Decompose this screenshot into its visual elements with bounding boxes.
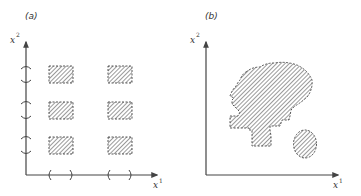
panel-a: (a) x 2 x 1 [10, 11, 163, 190]
y-axis-sup: 2 [196, 31, 200, 38]
x-axis-sup: 1 [159, 177, 163, 184]
region-a-5 [49, 137, 73, 154]
y-axis-label: x [10, 35, 15, 45]
region-a-6 [108, 137, 132, 154]
region-a-2 [108, 66, 132, 83]
panel-b-label: (b) [205, 11, 218, 21]
x-axis-sup: 1 [339, 177, 343, 184]
disk-region [294, 130, 317, 158]
region-a-1 [49, 66, 73, 83]
y-axis-sup: 2 [16, 31, 20, 38]
y-axis-label: x [190, 35, 195, 45]
x-axis-label: x [153, 180, 158, 190]
region-a-4 [108, 102, 132, 119]
panel-a-label: (a) [25, 11, 38, 21]
figure: (a) x 2 x 1 [0, 0, 361, 196]
x-axis-label: x [333, 180, 338, 190]
panel-b: (b) x 2 x 1 [190, 11, 343, 190]
region-a-3 [49, 102, 73, 119]
hatched-regions-a [49, 66, 132, 154]
